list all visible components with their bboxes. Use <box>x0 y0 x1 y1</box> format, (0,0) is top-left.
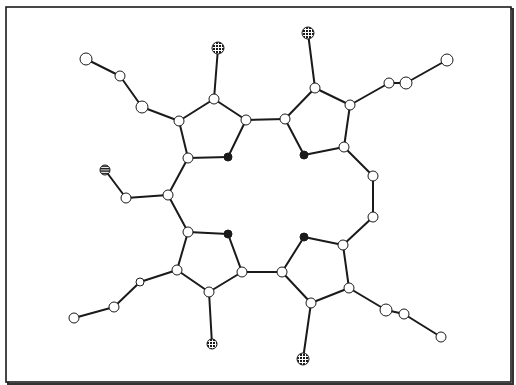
atom-open-icon <box>237 267 247 277</box>
atom-open-icon <box>121 193 131 203</box>
atom-open-icon <box>69 313 79 323</box>
atom-open-icon <box>441 54 453 66</box>
atom-black-icon <box>224 153 232 161</box>
atom-black-icon <box>224 230 232 238</box>
atom-open-icon <box>400 77 412 89</box>
molecule-diagram <box>0 0 516 385</box>
atom-open-icon <box>109 302 119 312</box>
atom-open-icon <box>136 278 144 286</box>
atom-open-icon <box>115 71 125 81</box>
atom-black-icon <box>300 233 308 241</box>
atom-dotted-icon <box>302 27 314 39</box>
atom-open-icon <box>310 83 320 93</box>
atom-dotted-icon <box>207 339 217 349</box>
atom-open-icon <box>436 332 446 342</box>
atom-open-icon <box>241 115 251 125</box>
bond-line <box>246 119 285 120</box>
diagram-container <box>0 0 516 385</box>
atom-open-icon <box>172 265 182 275</box>
atom-open-icon <box>344 283 354 293</box>
bond-line <box>188 157 228 158</box>
atom-open-icon <box>306 298 316 308</box>
atom-open-icon <box>345 100 355 110</box>
atom-open-icon <box>380 304 392 316</box>
atom-dotted-icon <box>297 353 309 365</box>
atom-open-icon <box>136 101 148 113</box>
atom-open-icon <box>163 190 173 200</box>
atom-black-icon <box>300 151 308 159</box>
atom-open-icon <box>368 171 378 181</box>
atom-open-icon <box>339 142 349 152</box>
atom-open-icon <box>338 240 348 250</box>
atom-open-icon <box>384 78 394 88</box>
atom-open-icon <box>280 114 290 124</box>
atom-open-icon <box>368 212 378 222</box>
atom-open-icon <box>174 116 184 126</box>
atom-open-icon <box>277 267 287 277</box>
atom-open-icon <box>183 153 193 163</box>
atom-open-icon <box>183 227 193 237</box>
atom-open-icon <box>80 53 92 65</box>
atom-open-icon <box>209 94 219 104</box>
atom-open-icon <box>399 309 409 319</box>
atom-open-icon <box>204 287 214 297</box>
atom-striped-icon <box>100 165 110 175</box>
atom-dotted-icon <box>212 42 224 54</box>
